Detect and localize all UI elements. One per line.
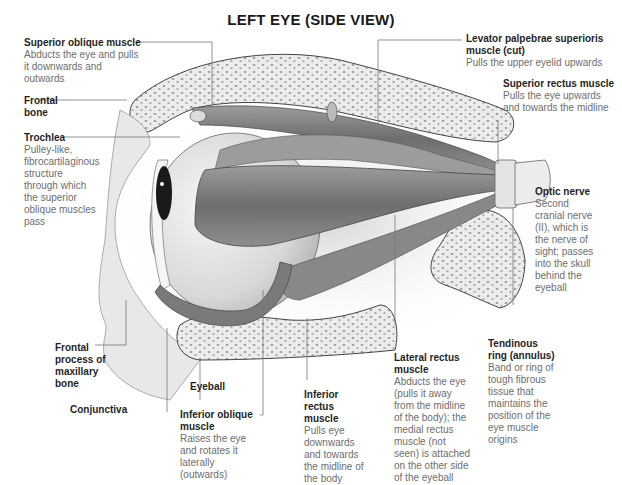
tendinous-ring-shape bbox=[495, 160, 517, 208]
label-heading: Trochlea bbox=[24, 132, 96, 144]
levator-cut-end bbox=[327, 102, 337, 122]
trochlea-shape bbox=[190, 110, 206, 122]
label-conjunctiva: Conjunctiva bbox=[70, 404, 140, 416]
label-description: Pulls eye downwards and towards the midl… bbox=[304, 425, 370, 485]
label-heading: Inferior oblique muscle bbox=[180, 409, 258, 433]
label-superior-rectus: Superior rectus muscle Pulls the eye upw… bbox=[503, 78, 618, 114]
label-description: Pulls the upper eyelid upwards bbox=[466, 57, 616, 69]
label-heading: Optic nerve bbox=[535, 186, 599, 198]
label-heading: Inferior rectus muscle bbox=[304, 389, 370, 425]
label-frontal-bone: Frontal bone bbox=[24, 95, 64, 119]
label-tendinous-ring: Tendinous ring (annulus) Band or ring of… bbox=[488, 338, 556, 446]
pupil-highlight bbox=[160, 182, 164, 186]
label-description: Raises the eye and rotates it laterally … bbox=[180, 433, 258, 481]
label-description: Pulley-like, fibrocartilaginous structur… bbox=[24, 144, 96, 228]
label-levator-palpebrae: Levator palpebrae superioris muscle (cut… bbox=[466, 33, 616, 69]
label-heading: Frontal bone bbox=[24, 95, 64, 119]
label-heading: Lateral rectus muscle bbox=[394, 352, 472, 376]
label-eyeball: Eyeball bbox=[190, 381, 240, 393]
label-superior-oblique: Superior oblique muscle Abducts the eye … bbox=[24, 37, 144, 85]
label-heading: Eyeball bbox=[190, 381, 240, 393]
label-inferior-rectus: Inferior rectus muscle Pulls eye downwar… bbox=[304, 389, 370, 485]
label-description: Second cranial nerve (II), which is the … bbox=[535, 198, 599, 294]
label-heading: Superior oblique muscle bbox=[24, 37, 144, 49]
label-lateral-rectus: Lateral rectus muscle Abducts the eye (p… bbox=[394, 352, 472, 484]
iris-shape bbox=[156, 166, 172, 220]
label-inferior-oblique: Inferior oblique muscle Raises the eye a… bbox=[180, 409, 258, 481]
label-trochlea: Trochlea Pulley-like, fibrocartilaginous… bbox=[24, 132, 96, 228]
label-heading: Tendinous ring (annulus) bbox=[488, 338, 556, 362]
label-optic-nerve: Optic nerve Second cranial nerve (II), w… bbox=[535, 186, 599, 294]
label-heading: Frontal process of maxillary bone bbox=[55, 342, 125, 390]
label-heading: Levator palpebrae superioris muscle (cut… bbox=[466, 33, 616, 57]
label-description: Pulls the eye upwards and towards the mi… bbox=[503, 90, 618, 114]
label-description: Band or ring of tough fibrous tissue tha… bbox=[488, 362, 556, 446]
label-description: Abducts the eye and pulls it downwards a… bbox=[24, 49, 144, 85]
label-heading: Conjunctiva bbox=[70, 404, 140, 416]
label-description: Abducts the eye (pulls it away from the … bbox=[394, 376, 472, 484]
label-heading: Superior rectus muscle bbox=[503, 78, 618, 90]
label-frontal-process: Frontal process of maxillary bone bbox=[55, 342, 125, 390]
